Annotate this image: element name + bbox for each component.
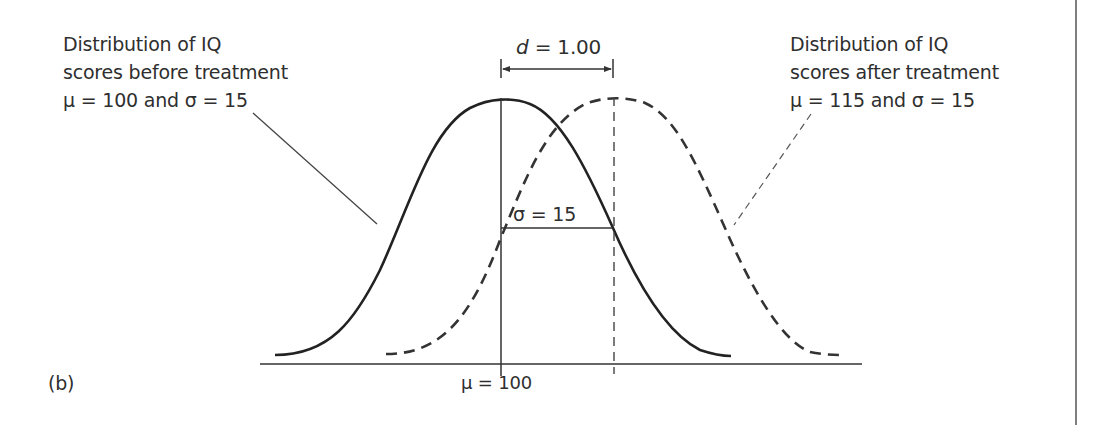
mean-axis-label: μ = 100 (461, 369, 532, 397)
effect-size-label: d = 1.00 (516, 33, 601, 61)
before-treatment-label: Distribution of IQ scores before treatme… (63, 30, 288, 114)
before-leader-line (253, 113, 377, 224)
effect-size-symbol: d (516, 35, 529, 59)
after-treatment-label: Distribution of IQ scores after treatmen… (790, 30, 999, 114)
sigma-label: σ = 15 (513, 200, 576, 228)
after-leader-line (734, 114, 811, 225)
after-label-line-3: μ = 115 and σ = 15 (790, 86, 999, 114)
effect-size-value: = 1.00 (529, 35, 602, 59)
panel-label: (b) (48, 369, 74, 397)
after-treatment-curve (386, 98, 842, 355)
d-bracket-right-arrow (604, 66, 612, 72)
after-label-line-1: Distribution of IQ (790, 30, 999, 58)
d-bracket-left-arrow (502, 66, 510, 72)
before-label-line-1: Distribution of IQ (63, 30, 288, 58)
after-label-line-2: scores after treatment (790, 58, 999, 86)
before-label-line-2: scores before treatment (63, 58, 288, 86)
before-label-line-3: μ = 100 and σ = 15 (63, 86, 288, 114)
